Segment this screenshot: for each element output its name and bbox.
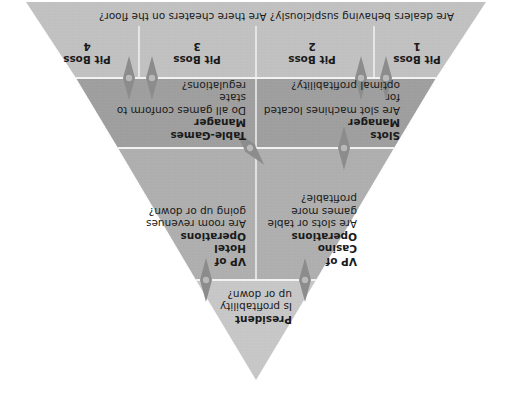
rotated-pyramid: President Is profitability up or down? V… <box>0 0 512 396</box>
node-slots-manager: Slots Manager Are slot machines located … <box>258 80 400 143</box>
node-table-games-manager: Table-Games Manager Do all games conform… <box>104 80 246 143</box>
pit-boss-questions: Are dealers behaving suspiciously? Are t… <box>54 11 454 24</box>
node-pit-boss-1: Pit Boss 1 <box>382 41 452 66</box>
node-question: Is profitability up or down? <box>214 289 292 314</box>
node-vp-casino: VP of Casino Operations Are slots or tab… <box>257 193 357 268</box>
node-pit-boss-4: Pit Boss 4 <box>52 41 122 66</box>
node-pit-boss-2: Pit Boss 2 <box>272 41 352 66</box>
diagram-canvas: President Is profitability up or down? V… <box>0 0 512 396</box>
node-president: President Is profitability up or down? <box>182 289 292 327</box>
node-vp-hotel: VP of Hotel Operations Are room revenues… <box>136 206 246 269</box>
node-pit-boss-3: Pit Boss 3 <box>157 41 237 66</box>
node-title: President <box>182 314 292 327</box>
